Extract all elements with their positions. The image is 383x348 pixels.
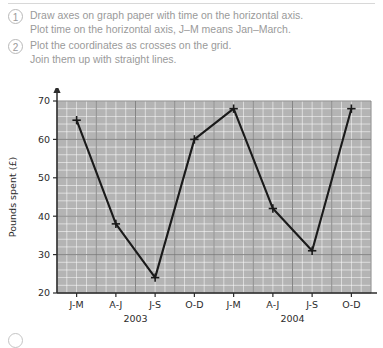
step-text-block: Draw axes on graph paper with time on th… [30,8,383,36]
y-tick-label: 20 [38,287,50,298]
x-group-label: 2003 [123,313,147,324]
step-number-badge-partial [8,333,23,348]
x-tick-label: J-M [69,299,84,310]
y-tick-label: 70 [38,95,50,106]
y-tick-label: 60 [38,134,50,145]
step-line: Join them up with straight lines. [30,52,383,66]
line-chart: 203040506070 J-MA-JJ-SO-DJ-MA-JJ-SO-D 20… [0,88,383,339]
step-line: Plot the coordinates as crosses on the g… [30,38,383,52]
x-tick-label: O-D [342,299,361,310]
x-tick-label: A-J [266,299,279,310]
y-tick-label: 40 [38,211,50,222]
step-line: Draw axes on graph paper with time on th… [30,8,383,22]
x-group-label: 2004 [280,313,304,324]
y-axis-arrowhead [53,88,60,93]
header-divider [8,3,375,4]
y-axis-title: Pounds spent (£) [7,157,18,237]
instruction-step-1: 1 Draw axes on graph paper with time on … [0,8,383,36]
y-tick-label: 50 [38,172,50,183]
y-tick-group: 203040506070 [38,95,57,298]
chart-svg: 203040506070 J-MA-JJ-SO-DJ-MA-JJ-SO-D 20… [0,88,383,339]
x-tick-label: J-S [305,299,318,310]
x-tick-group: J-MA-JJ-SO-DJ-MA-JJ-SO-D [69,293,361,310]
x-tick-label: O-D [185,299,204,310]
instruction-step-2: 2 Plot the coordinates as crosses on the… [0,38,383,66]
x-tick-label: J-S [148,299,161,310]
x-tick-label: A-J [109,299,122,310]
step-number-badge: 2 [8,39,23,54]
x-tick-label: J-M [226,299,241,310]
step-number-badge: 1 [8,9,23,24]
instructions-panel: 1 Draw axes on graph paper with time on … [0,0,383,68]
y-tick-label: 30 [38,249,50,260]
step-text-block: Plot the coordinates as crosses on the g… [30,38,383,66]
step-line: Plot time on the horizontal axis, J–M me… [30,22,383,36]
